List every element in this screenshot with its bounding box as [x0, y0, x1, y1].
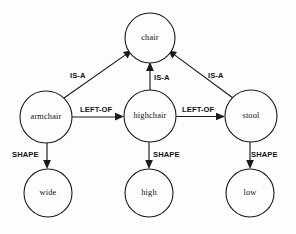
edge-armchair-shape-wide	[43, 143, 51, 169]
node-label-highchair: highchair	[134, 111, 167, 120]
edge-label-armchair-shape-wide: SHAPE	[12, 150, 39, 159]
edge-highchair-shape-high	[145, 142, 153, 169]
arrowhead-armchair-shape-wide	[43, 160, 51, 169]
semantic-network-diagram: chair armchair highchair stool wide high…	[0, 0, 296, 234]
arrowhead-highchair-leftof-stool	[216, 113, 225, 120]
arrowhead-stool-shape-low	[246, 160, 254, 169]
node-stool[interactable]: stool	[225, 90, 277, 142]
edge-line-stool-isa-chair	[173, 54, 233, 98]
node-highchair[interactable]: highchair	[124, 90, 176, 142]
node-label-chair: chair	[141, 33, 159, 42]
arrowhead-highchair-shape-high	[145, 160, 153, 169]
node-low[interactable]: low	[226, 169, 274, 217]
edge-label-highchair-shape-high: SHAPE	[153, 150, 180, 159]
node-wide[interactable]: wide	[24, 169, 72, 217]
node-label-wide: wide	[40, 188, 57, 197]
edge-label-armchair-isa-chair: IS-A	[70, 71, 86, 80]
arrowhead-armchair-leftof-highchair	[115, 113, 124, 121]
edge-label-stool-shape-low: SHAPE	[251, 150, 278, 159]
node-armchair[interactable]: armchair	[20, 91, 72, 143]
node-label-stool: stool	[242, 111, 260, 120]
node-label-low: low	[243, 188, 257, 197]
node-high[interactable]: high	[125, 169, 173, 217]
edge-label-highchair-leftof-stool: LEFT-OF	[182, 105, 215, 114]
edge-label-highchair-isa-chair: IS-A	[154, 73, 170, 82]
edge-label-stool-isa-chair: IS-A	[208, 71, 224, 80]
node-label-high: high	[141, 188, 157, 197]
edge-label-armchair-leftof-highchair: LEFT-OF	[80, 105, 113, 114]
node-label-armchair: armchair	[31, 112, 62, 121]
edge-highchair-isa-chair	[146, 62, 154, 90]
diagram-canvas: chair armchair highchair stool wide high…	[0, 0, 296, 234]
node-chair[interactable]: chair	[125, 13, 175, 63]
